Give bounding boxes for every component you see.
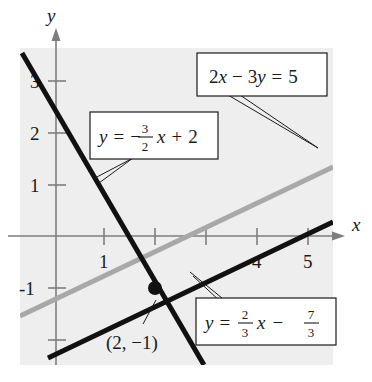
callout-lower-slope-denominator: 3: [242, 325, 249, 340]
callout-upper-text: y=−: [97, 126, 141, 147]
callout-lower-intercept-numerator: 7: [308, 307, 315, 322]
x-tick-label-1: 1: [99, 251, 109, 272]
y-tick-label-2: 2: [30, 123, 40, 144]
intersection-point-label: (2, −1): [106, 332, 158, 354]
y-tick-label-1: 1: [30, 175, 40, 196]
x-tick-label-5: 5: [303, 251, 313, 272]
x-axis-label: x: [351, 214, 361, 235]
callout-upper-box: [90, 112, 218, 159]
callout-upper-frac-numerator: 3: [142, 121, 149, 136]
linear-system-graph: y x 1 4 5 3 2 1 -1: [0, 0, 372, 382]
callout-lower-box: [196, 298, 336, 345]
callout-upper-text-tail: x+2: [156, 126, 198, 147]
figure-container: y x 1 4 5 3 2 1 -1: [0, 0, 372, 382]
y-axis-label: y: [45, 5, 56, 26]
callout-upper-frac-denominator: 2: [142, 139, 149, 154]
y-tick-label-neg1: -1: [19, 278, 35, 299]
callout-lower-intercept-denominator: 3: [308, 325, 315, 340]
callout-lower-slope-numerator: 2: [242, 307, 249, 322]
y-axis-arrow: [52, 28, 61, 41]
intersection-point-dot: [148, 281, 162, 295]
x-axis-arrow: [332, 232, 345, 241]
